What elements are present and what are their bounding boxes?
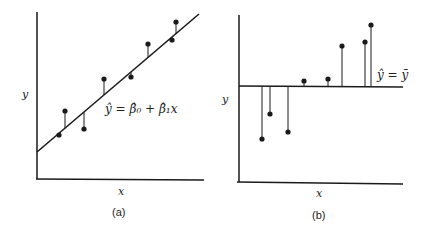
data-point <box>101 76 106 81</box>
data-point <box>145 41 150 46</box>
data-point <box>362 39 367 44</box>
data-point <box>128 74 133 79</box>
panel-b-plot <box>237 15 403 184</box>
data-point <box>173 19 178 24</box>
panel-a-plot <box>36 12 204 180</box>
data-point <box>62 108 67 113</box>
panel-a-x-label: x <box>118 185 124 198</box>
mean-equation: ŷ = ȳ <box>377 68 408 82</box>
panel-b-caption: (b) <box>312 209 325 221</box>
figure-canvas <box>0 0 423 234</box>
data-point <box>301 78 306 83</box>
data-point <box>259 136 264 141</box>
regression-line <box>37 14 199 152</box>
data-point <box>325 76 330 81</box>
data-point <box>285 129 290 134</box>
panel-b-y-label: y <box>222 93 228 106</box>
panel-a-y-label: y <box>22 88 28 101</box>
mean-line <box>239 86 403 87</box>
data-point <box>81 126 86 131</box>
x-axis <box>237 182 403 184</box>
data-point <box>267 111 272 116</box>
data-point <box>368 22 373 27</box>
data-point <box>56 132 61 137</box>
data-point <box>169 37 174 42</box>
panel-a-caption: (a) <box>112 206 125 218</box>
regression-equation: ŷ = β̂₀ + β̂₁x <box>105 102 177 116</box>
panel-b-x-label: x <box>316 187 322 200</box>
x-axis <box>36 179 204 180</box>
data-point <box>339 43 344 48</box>
